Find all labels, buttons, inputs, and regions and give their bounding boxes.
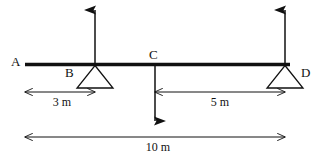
support-triangle-b [77, 66, 113, 89]
dimension-label-3m: 3 m [45, 96, 79, 108]
support-triangle-d [267, 66, 303, 89]
node-label-a: A [11, 55, 20, 68]
dimension-label-5m: 5 m [203, 96, 237, 108]
node-label-c: C [149, 48, 158, 61]
node-label-b: B [65, 66, 74, 79]
beam-diagram: A B C D 3 m 5 m 10 m [0, 0, 325, 163]
dimension-label-10m: 10 m [138, 141, 178, 153]
node-label-d: D [301, 66, 310, 79]
beam-diagram-canvas [0, 0, 325, 163]
